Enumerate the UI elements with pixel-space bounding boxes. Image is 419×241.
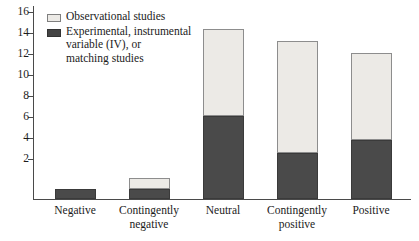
- bar-segment-experimental[interactable]: [203, 116, 244, 199]
- bar-segment-observational[interactable]: [129, 178, 170, 189]
- legend-swatch-observational-icon: [47, 14, 61, 22]
- legend-label-observational: Observational studies: [66, 10, 165, 24]
- x-label-line2: negative: [99, 217, 199, 231]
- legend-label-line1: Experimental, instrumental: [66, 25, 191, 39]
- bar-segment-observational[interactable]: [351, 53, 392, 140]
- legend-label-line2: variable (IV), or: [66, 38, 191, 52]
- y-tick-label-8: 8: [23, 90, 29, 102]
- bar-group-contingently-positive[interactable]: [277, 41, 318, 200]
- x-axis-line: [33, 199, 411, 200]
- stacked-bar-chart-figure: 16 14 12 10 8 6 4 2: [0, 0, 419, 241]
- legend-swatch-experimental-icon: [47, 29, 61, 37]
- chart-legend: Observational studies Experimental, inst…: [47, 10, 222, 66]
- y-tick-label-10: 10: [18, 69, 30, 81]
- y-tick-label-14: 14: [18, 27, 30, 39]
- bar-segment-experimental[interactable]: [277, 153, 318, 199]
- bar-segment-observational[interactable]: [277, 41, 318, 154]
- legend-label-experimental: Experimental, instrumental variable (IV)…: [66, 25, 191, 66]
- bar-segment-experimental[interactable]: [351, 140, 392, 199]
- y-tick-label-16: 16: [18, 6, 30, 18]
- x-axis-labels: Negative Contingently negative Neutral C…: [33, 203, 411, 241]
- bar-segment-experimental[interactable]: [129, 189, 170, 200]
- bar-group-contingently-negative[interactable]: [129, 178, 170, 199]
- y-tick-label-12: 12: [18, 48, 30, 60]
- legend-label-line3: matching studies: [66, 52, 191, 66]
- y-tick-label-4: 4: [23, 132, 29, 144]
- y-tick-label-6: 6: [23, 111, 29, 123]
- bar-group-negative[interactable]: [55, 189, 96, 200]
- legend-item-experimental: Experimental, instrumental variable (IV)…: [47, 25, 222, 66]
- x-label-positive: Positive: [321, 203, 419, 217]
- y-tick-label-2: 2: [23, 153, 29, 165]
- bar-segment-experimental[interactable]: [55, 189, 96, 200]
- legend-item-observational: Observational studies: [47, 10, 222, 24]
- bar-group-positive[interactable]: [351, 53, 392, 199]
- x-label-line2: positive: [247, 217, 347, 231]
